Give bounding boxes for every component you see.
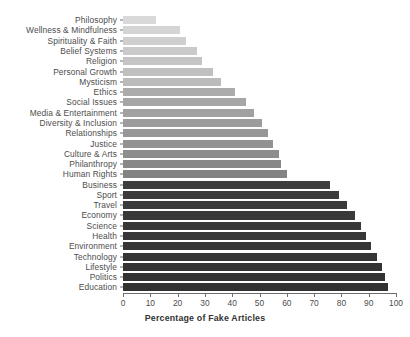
bar-row: Diversity & Inclusion <box>123 118 396 128</box>
y-axis-tick-label: Human Rights <box>63 169 117 179</box>
bar-row: Spirituality & Faith <box>123 36 396 46</box>
y-axis-tick-label: Sport <box>96 190 117 200</box>
bar <box>123 37 186 45</box>
x-axis-tick-label: 50 <box>255 298 264 308</box>
y-axis-tick-label: Travel <box>93 200 117 210</box>
bar-row: Education <box>123 282 396 292</box>
bar <box>123 119 262 127</box>
bar <box>123 57 202 65</box>
x-axis-tick-label: 30 <box>200 298 209 308</box>
x-axis-tick <box>123 293 124 297</box>
bar <box>123 211 355 219</box>
x-axis-tick <box>232 293 233 297</box>
y-axis-tick-label: Health <box>92 231 117 241</box>
bar <box>123 201 347 209</box>
x-axis-tick <box>314 293 315 297</box>
bar-row: Human Rights <box>123 169 396 179</box>
y-axis-tick-label: Education <box>79 282 117 292</box>
x-axis-tick-label: 100 <box>389 298 403 308</box>
x-axis-line: 0102030405060708090100 <box>123 293 396 294</box>
x-axis-tick-label: 0 <box>121 298 126 308</box>
y-axis-tick-label: Business <box>82 180 117 190</box>
bar-row: Justice <box>123 138 396 148</box>
y-axis-tick-label: Relationships <box>65 128 117 138</box>
y-axis-tick-label: Politics <box>90 272 117 282</box>
plot-area: PhilosophyWellness & MindfulnessSpiritua… <box>123 15 396 293</box>
y-axis-tick-label: Mysticism <box>79 77 117 87</box>
bar <box>123 68 213 76</box>
y-axis-tick-label: Personal Growth <box>53 67 117 77</box>
x-axis-tick-label: 60 <box>282 298 291 308</box>
bar <box>123 16 156 24</box>
y-axis-tick-label: Ethics <box>94 87 117 97</box>
x-axis-tick-label: 90 <box>364 298 373 308</box>
bar <box>123 140 273 148</box>
y-axis-tick-label: Technology <box>74 252 117 262</box>
bar-row: Ethics <box>123 87 396 97</box>
y-axis-tick-label: Culture & Arts <box>64 149 117 159</box>
bar <box>123 150 279 158</box>
bar-row: Philosophy <box>123 15 396 25</box>
bar-row: Culture & Arts <box>123 149 396 159</box>
x-axis-tick <box>260 293 261 297</box>
x-axis-tick-label: 20 <box>173 298 182 308</box>
bar <box>123 98 246 106</box>
bar-row: Belief Systems <box>123 46 396 56</box>
bar-row: Business <box>123 180 396 190</box>
x-axis-tick-label: 80 <box>337 298 346 308</box>
y-axis-tick-label: Justice <box>90 139 117 149</box>
y-axis-tick-label: Diversity & Inclusion <box>40 118 118 128</box>
bar-row: Health <box>123 231 396 241</box>
bar <box>123 109 254 117</box>
bar-row: Economy <box>123 210 396 220</box>
y-axis-tick-label: Spirituality & Faith <box>48 36 118 46</box>
x-axis-tick <box>150 293 151 297</box>
bar-row: Wellness & Mindfulness <box>123 25 396 35</box>
x-axis-tick <box>396 293 397 297</box>
bar <box>123 47 197 55</box>
bar-row: Politics <box>123 272 396 282</box>
y-axis-tick-label: Philanthropy <box>69 159 117 169</box>
bar <box>123 191 339 199</box>
y-axis-tick-label: Wellness & Mindfulness <box>26 25 117 35</box>
x-axis-title: Percentage of Fake Articles <box>0 313 410 323</box>
y-axis-tick-label: Religion <box>86 56 117 66</box>
x-axis-tick-label: 40 <box>228 298 237 308</box>
bar <box>123 26 180 34</box>
y-axis-tick-label: Science <box>87 221 118 231</box>
x-axis-tick <box>205 293 206 297</box>
bar-row: Media & Entertainment <box>123 108 396 118</box>
bar-row: Personal Growth <box>123 66 396 76</box>
bar <box>123 232 366 240</box>
y-axis-tick-label: Social Issues <box>66 97 117 107</box>
bar <box>123 222 361 230</box>
x-axis-tick <box>178 293 179 297</box>
bar <box>123 160 281 168</box>
y-axis-tick-label: Lifestyle <box>85 262 117 272</box>
bar <box>123 253 377 261</box>
y-axis-tick-label: Belief Systems <box>60 46 117 56</box>
bar <box>123 181 330 189</box>
y-axis-tick-label: Media & Entertainment <box>30 108 117 118</box>
y-axis-tick-label: Environment <box>69 241 117 251</box>
bar <box>123 78 221 86</box>
bar-row: Religion <box>123 56 396 66</box>
bar-row: Relationships <box>123 128 396 138</box>
bar <box>123 273 385 281</box>
y-axis-tick-label: Economy <box>81 210 117 220</box>
bar-row: Mysticism <box>123 77 396 87</box>
bar <box>123 242 371 250</box>
x-axis-tick <box>369 293 370 297</box>
bar-row: Social Issues <box>123 97 396 107</box>
bar <box>123 129 268 137</box>
bar <box>123 283 388 291</box>
bar <box>123 88 235 96</box>
bar <box>123 170 287 178</box>
y-axis-tick-label: Philosophy <box>75 15 117 25</box>
bar-row: Science <box>123 221 396 231</box>
bar-row: Philanthropy <box>123 159 396 169</box>
bar <box>123 263 382 271</box>
x-axis-tick-label: 70 <box>309 298 318 308</box>
bar-row: Technology <box>123 251 396 261</box>
bar-row: Sport <box>123 190 396 200</box>
